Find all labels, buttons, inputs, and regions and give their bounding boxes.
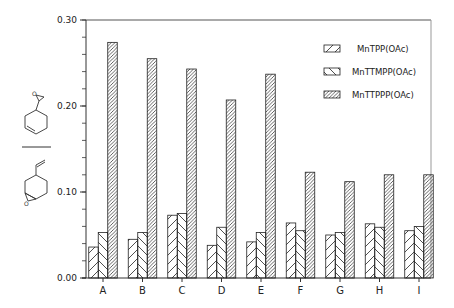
legend-label: MnTPP(OAc)	[357, 44, 409, 54]
bar	[147, 59, 157, 278]
bar-group-e	[247, 74, 276, 278]
bar	[207, 245, 217, 278]
bar	[187, 69, 197, 278]
y-tick-label: 0.30	[57, 15, 77, 25]
bar	[89, 247, 99, 278]
bar	[335, 232, 345, 278]
bar-group-c	[168, 69, 197, 278]
bar	[384, 175, 394, 278]
legend-swatch-back-hatch-icon	[324, 68, 340, 75]
bar	[128, 239, 138, 278]
bar	[177, 214, 187, 279]
bar	[266, 74, 276, 278]
x-tick-label: I	[418, 285, 421, 296]
bar	[345, 182, 355, 278]
bar-chart: 0.000.100.200.30 ABCDEFGHI MnTPP(OAc) Mn…	[0, 0, 454, 308]
bar-group-b	[128, 59, 157, 278]
bar-group-h	[365, 175, 394, 278]
bar-group-i	[405, 175, 434, 278]
bar	[375, 227, 385, 278]
bar	[217, 227, 227, 278]
x-tick-label: D	[218, 285, 226, 296]
bar-group-d	[207, 100, 236, 278]
bar	[247, 242, 257, 278]
bar	[405, 231, 415, 278]
bar	[256, 232, 266, 278]
x-tick-label: E	[258, 285, 264, 296]
legend-label: MnTTMPP(OAc)	[352, 67, 416, 77]
bar	[424, 175, 434, 278]
x-tick-label: C	[179, 285, 186, 296]
bar	[108, 42, 118, 278]
bar-groups	[89, 42, 434, 278]
bar	[414, 226, 424, 278]
legend: MnTPP(OAc) MnTTMPP(OAc) MnTTPPP(OAc)	[324, 44, 416, 100]
svg-text:O: O	[32, 90, 37, 97]
x-tick-label: A	[100, 285, 107, 296]
bar	[296, 231, 306, 278]
x-tick-label: B	[139, 285, 146, 296]
svg-text:O: O	[24, 200, 29, 207]
x-tick-label: H	[376, 285, 384, 296]
bar	[168, 215, 178, 278]
bar	[98, 232, 108, 278]
legend-label: MnTTPPP(OAc)	[352, 90, 414, 100]
side-chain-epoxide-structure-icon: O	[25, 90, 47, 134]
y-axis-label-structures: O O	[22, 90, 51, 207]
bar	[138, 232, 148, 278]
legend-item-mntpp: MnTPP(OAc)	[324, 44, 409, 54]
bar	[305, 172, 315, 278]
ring-epoxide-structure-icon: O	[24, 160, 47, 207]
bar-group-f	[286, 172, 315, 278]
bar	[365, 224, 375, 278]
legend-swatch-sparse-hatch-icon	[324, 45, 340, 52]
legend-swatch-dense-hatch-icon	[324, 91, 340, 98]
legend-item-mnttmpp: MnTTMPP(OAc)	[324, 67, 416, 77]
bar-group-a	[89, 42, 118, 278]
y-axis-ticks: 0.000.100.200.30	[57, 15, 86, 283]
y-tick-label: 0.10	[57, 187, 77, 197]
bar-group-g	[326, 182, 355, 278]
x-tick-label: G	[336, 285, 344, 296]
x-axis-labels: ABCDEFGHI	[100, 278, 421, 296]
x-tick-label: F	[298, 285, 304, 296]
bar	[326, 235, 336, 278]
bar	[286, 223, 296, 278]
y-tick-label: 0.20	[57, 101, 77, 111]
legend-item-mnttppp: MnTTPPP(OAc)	[324, 90, 414, 100]
y-tick-label: 0.00	[57, 273, 77, 283]
bar	[226, 100, 236, 278]
